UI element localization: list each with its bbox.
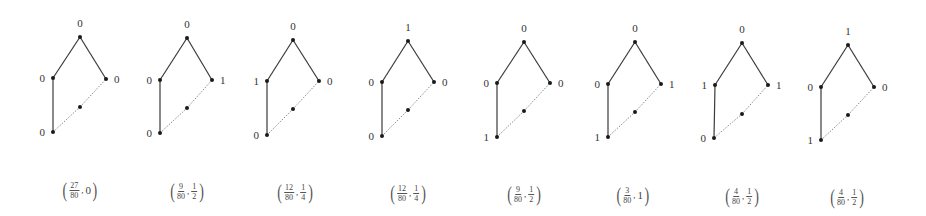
caption-5: (980,12) (506, 184, 542, 204)
dashed-edge (53, 107, 80, 132)
caption-second-value: 12 (851, 188, 857, 207)
comma: , (742, 191, 744, 201)
caption-second-value: 1 (637, 189, 643, 201)
right-paren: ) (754, 186, 759, 206)
node-bottom (712, 136, 716, 140)
caption-6: (380,1) (615, 185, 650, 205)
node-left (158, 78, 162, 82)
left-paren: ( (390, 183, 395, 203)
dashed-edge (821, 115, 848, 140)
node-label-right: 1 (669, 78, 675, 90)
comma: , (524, 189, 526, 199)
dashed-edge (635, 84, 661, 112)
dashed-edge (80, 79, 106, 107)
dashed-edge (742, 85, 768, 114)
lattice-graph-5: 0001 (484, 22, 565, 143)
dashed-edge (382, 110, 408, 136)
node-label-left: 0 (147, 74, 153, 86)
node-left (51, 76, 55, 80)
caption-first-value: 980 (177, 182, 185, 201)
node-label-top: 0 (632, 22, 638, 34)
node-label-right: 1 (776, 79, 782, 91)
node-right (548, 81, 552, 85)
node-middle (740, 112, 744, 116)
left-paren: ( (507, 184, 512, 204)
node-bottom (51, 130, 55, 134)
node-label-right: 0 (114, 73, 120, 85)
node-label-right: 0 (327, 75, 333, 87)
comma: , (296, 187, 298, 197)
caption-1: (2780,0) (61, 180, 98, 200)
node-label-top: 1 (845, 25, 851, 37)
node-middle (633, 110, 637, 114)
node-label-bottom: 0 (254, 129, 260, 141)
dashed-edge (848, 87, 874, 115)
solid-edge (408, 41, 434, 82)
dashed-edge (524, 83, 550, 111)
node-right (432, 80, 436, 84)
caption-second-value: 12 (191, 182, 197, 201)
lattice-graph-8: 1001 (808, 25, 889, 146)
right-paren: ) (859, 187, 864, 207)
dashed-edge (267, 109, 293, 135)
solid-edge (53, 37, 80, 78)
node-top (291, 38, 295, 42)
caption-second-value: 14 (413, 184, 419, 203)
node-label-left: 0 (369, 76, 375, 88)
node-label-bottom: 1 (484, 131, 490, 143)
node-label-top: 0 (290, 20, 296, 32)
lattice-graph-6: 0011 (595, 22, 675, 143)
node-label-top: 0 (739, 23, 745, 35)
node-left (265, 79, 269, 83)
left-paren: ( (62, 180, 67, 200)
left-paren: ( (830, 187, 835, 207)
solid-edge (497, 42, 524, 83)
caption-first-value: 2780 (69, 181, 79, 200)
caption-first-value: 480 (732, 187, 740, 206)
left-paren: ( (616, 185, 621, 205)
node-right (104, 77, 108, 81)
caption-8: (480,12) (829, 187, 865, 207)
solid-edge (635, 42, 661, 84)
solid-edge (742, 43, 768, 85)
node-left (380, 80, 384, 84)
node-left (713, 83, 717, 87)
node-label-right: 0 (558, 77, 564, 89)
node-bottom (606, 135, 610, 139)
solid-edge (382, 41, 408, 82)
solid-edge (608, 42, 635, 84)
node-label-left: 1 (702, 79, 708, 91)
node-right (659, 82, 663, 86)
lattice-graph-1: 0000 (40, 17, 121, 138)
node-label-bottom: 0 (147, 127, 153, 139)
solid-edge (293, 40, 319, 81)
right-paren: ) (93, 180, 98, 200)
comma: , (187, 186, 189, 196)
caption-4: (1280,14) (389, 183, 427, 203)
dashed-edge (293, 81, 319, 109)
node-bottom (265, 133, 269, 137)
left-paren: ( (725, 186, 730, 206)
caption-7: (480,12) (724, 186, 760, 206)
node-label-bottom: 1 (808, 134, 814, 146)
caption-2: (980,12) (169, 181, 205, 201)
right-paren: ) (421, 183, 426, 203)
dashed-edge (187, 80, 212, 108)
caption-first-value: 480 (837, 188, 845, 207)
node-bottom (380, 134, 384, 138)
solid-edge (524, 42, 550, 83)
node-label-bottom: 0 (701, 132, 707, 144)
node-label-bottom: 1 (595, 131, 601, 143)
node-label-top: 0 (77, 17, 83, 29)
node-top (406, 39, 410, 43)
diagram-canvas: 00000010010010000001001101101001 (0, 0, 926, 216)
caption-second-value: 12 (528, 185, 534, 204)
lattice-graph-4: 1000 (369, 21, 449, 142)
node-right (210, 78, 214, 82)
right-paren: ) (645, 185, 650, 205)
solid-edge (187, 38, 212, 80)
caption-first-value: 1280 (284, 183, 294, 202)
node-label-right: 0 (442, 76, 448, 88)
solid-edge (80, 37, 106, 79)
solid-edge (821, 45, 848, 87)
